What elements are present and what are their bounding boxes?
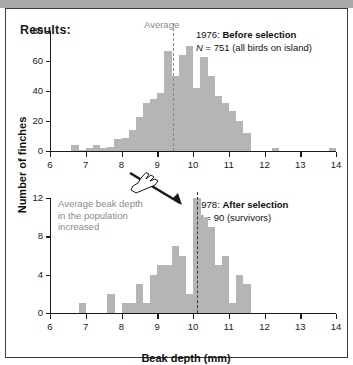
x-tick-label: 6 [41,159,59,170]
x-tick-label: 13 [291,159,309,170]
x-tick [86,152,87,157]
y-tick [46,61,51,62]
x-axis-title: Beak depth (mm) [66,352,306,364]
x-tick [193,152,194,157]
x-tick [229,152,230,157]
x-tick [50,152,51,157]
x-tick [122,314,123,319]
x-tick [157,314,158,319]
y-tick [46,91,51,92]
pointing-hand-icon [124,159,214,207]
x-tick-label: 6 [41,321,59,332]
y-tick-label: 80 [17,25,43,36]
figure-frame: Results: Number of finches Beak depth (m… [5,8,348,358]
y-tick-label: 0 [17,307,43,318]
y-tick-label: 20 [17,115,43,126]
histogram-bar [329,148,337,151]
average-line [173,23,174,151]
x-tick-label: 8 [113,321,131,332]
x-tick [157,152,158,157]
x-tick-label: 9 [148,321,166,332]
y-axis [50,198,51,313]
y-tick [46,31,51,32]
x-tick [229,314,230,319]
y-tick [46,121,51,122]
x-tick [265,314,266,319]
top-strip [0,0,353,8]
x-tick [336,152,337,157]
figure-container: Results: Number of finches Beak depth (m… [0,0,353,365]
x-tick-label: 11 [220,321,238,332]
x-tick-label: 14 [327,159,345,170]
x-tick-label: 13 [291,321,309,332]
chart-panel-1978: Average beak depth in the population inc… [6,184,349,349]
histogram-bar [243,284,251,313]
x-tick [122,152,123,157]
y-tick [46,198,51,199]
y-tick-label: 0 [17,145,43,156]
average-line [197,192,198,313]
x-tick [193,314,194,319]
histogram-1978: 0481267891011121314 [50,198,336,313]
x-tick-label: 7 [77,321,95,332]
x-tick-label: 11 [220,159,238,170]
histogram-bar [243,133,251,151]
y-tick-label: 12 [17,192,43,203]
y-tick-label: 40 [17,85,43,96]
x-tick-label: 12 [256,159,274,170]
x-tick [300,152,301,157]
histogram-bar [79,303,87,313]
y-tick-label: 60 [17,55,43,66]
x-tick [86,314,87,319]
histogram-bar [107,294,115,313]
chart-panel-1976: Average 1976: Before selection N = 751 (… [6,9,349,179]
x-tick-label: 7 [77,159,95,170]
arrow-head [172,193,182,205]
y-tick-label: 4 [17,269,43,280]
y-tick [46,236,51,237]
x-tick-label: 14 [327,321,345,332]
x-tick [265,152,266,157]
x-tick [300,314,301,319]
x-tick-label: 10 [184,321,202,332]
histogram-bar [272,148,280,151]
x-tick [50,314,51,319]
histogram-1976: 02040608067891011121314 [50,31,336,151]
x-tick [336,314,337,319]
y-tick [46,275,51,276]
y-tick-label: 8 [17,230,43,241]
x-tick-label: 12 [256,321,274,332]
